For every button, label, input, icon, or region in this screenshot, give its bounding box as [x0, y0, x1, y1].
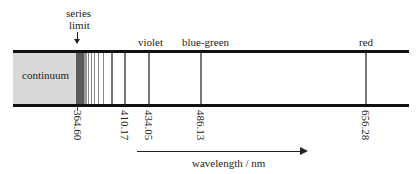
tick-label-364: 364.60: [72, 110, 84, 140]
spectral-line: [88, 53, 89, 104]
spectral-line: [98, 53, 99, 104]
tick-label-486: 486.13: [195, 110, 207, 140]
spectral-line-410: [124, 53, 126, 104]
violet-label: violet: [138, 36, 163, 48]
axis-label: wavelength / nm: [192, 157, 265, 169]
blue-green-label: blue-green: [182, 36, 229, 48]
tick-label-434: 434.05: [143, 110, 155, 140]
series-limit-arrow-icon: [74, 39, 80, 44]
wavelength-arrow-icon: [300, 147, 308, 155]
spectral-line-blue-green-486: [200, 53, 202, 104]
spectrum-bottom-border: [13, 104, 409, 107]
spectral-line-red-656: [365, 53, 367, 104]
spectral-line: [91, 53, 92, 104]
red-label: red: [359, 36, 373, 48]
spectral-line: [103, 53, 104, 104]
spectral-line-violet-434: [148, 53, 150, 104]
tick-label-410: 410.17: [119, 110, 131, 140]
series-limit-band: [76, 53, 84, 104]
series-limit-label-line1: series: [66, 7, 91, 19]
wavelength-arrow-shaft: [137, 151, 301, 152]
continuum-label: continuum: [22, 69, 69, 81]
series-limit-label-line2: limit: [69, 19, 90, 31]
convergence-gradient: [84, 53, 87, 104]
tick-label-656: 656.28: [360, 110, 372, 140]
spectral-line: [111, 53, 113, 104]
spectral-line: [94, 53, 95, 104]
